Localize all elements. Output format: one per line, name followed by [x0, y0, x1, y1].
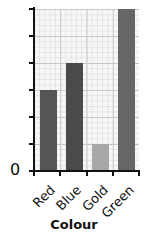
y-tick [29, 8, 34, 10]
bar-green [118, 9, 135, 171]
y-tick [29, 89, 34, 91]
x-tick [138, 171, 140, 176]
x-axis-title: Colour [0, 217, 148, 232]
bar-blue [66, 63, 83, 171]
y-tick [29, 35, 34, 37]
x-tick [112, 171, 114, 176]
bar-chart: 0 RedBlueGoldGreen Colour [0, 0, 148, 238]
y-axis-zero-label: 0 [10, 161, 20, 179]
x-tick [33, 171, 35, 176]
x-tick [86, 171, 88, 176]
y-tick [29, 116, 34, 118]
bar-red [40, 90, 57, 171]
y-tick [29, 143, 34, 145]
x-tick [59, 171, 61, 176]
y-tick [29, 62, 34, 64]
bar-gold [92, 144, 109, 171]
